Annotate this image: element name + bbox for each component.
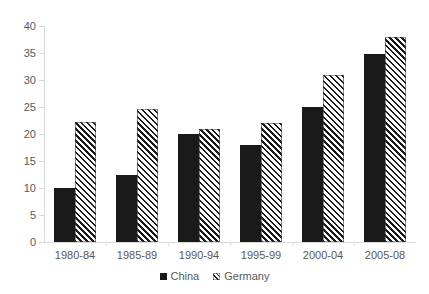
legend-swatch-solid-square-icon — [160, 273, 167, 280]
bar-germany — [385, 37, 406, 242]
plot-area — [44, 26, 416, 242]
bar-china — [302, 107, 323, 242]
bar-china — [364, 54, 385, 242]
y-tick-label: 15 — [4, 156, 36, 167]
x-axis-label-2000-04: 2000-04 — [292, 249, 354, 261]
bar-group — [292, 26, 354, 242]
bar-germany — [323, 75, 344, 242]
x-tick-separator — [292, 242, 293, 246]
bar-group — [354, 26, 416, 242]
y-tick-label: 0 — [4, 237, 36, 248]
chart-legend: China Germany — [0, 270, 429, 282]
y-tick-label: 25 — [4, 102, 36, 113]
bar-china — [178, 134, 199, 242]
bar-germany — [137, 109, 158, 242]
y-tick-label: 35 — [4, 48, 36, 59]
legend-label-germany: Germany — [224, 270, 269, 282]
bar-group — [168, 26, 230, 242]
x-tick-separator — [230, 242, 231, 246]
x-axis-label-2005-08: 2005-08 — [354, 249, 416, 261]
bar-group — [230, 26, 292, 242]
legend-label-china: China — [171, 270, 200, 282]
bar-group — [44, 26, 106, 242]
x-axis-label-1980-84: 1980-84 — [44, 249, 106, 261]
x-tick-separator — [168, 242, 169, 246]
bar-chart: 40 35 30 25 20 15 10 5 0 — [0, 0, 429, 294]
x-axis-label-1990-94: 1990-94 — [168, 249, 230, 261]
bar-group — [106, 26, 168, 242]
y-axis-tick-labels: 40 35 30 25 20 15 10 5 0 — [0, 0, 36, 294]
bar-china — [54, 188, 75, 242]
x-tick-separator — [106, 242, 107, 246]
y-tick-label: 20 — [4, 129, 36, 140]
y-tick-label: 5 — [4, 210, 36, 221]
y-tick-label: 10 — [4, 183, 36, 194]
bar-germany — [199, 129, 220, 242]
legend-item-germany: Germany — [213, 270, 269, 282]
x-axis-label-1985-89: 1985-89 — [106, 249, 168, 261]
legend-swatch-hatched-square-icon — [213, 273, 220, 280]
y-tick-label: 30 — [4, 75, 36, 86]
x-tick-separator — [354, 242, 355, 246]
legend-item-china: China — [160, 270, 200, 282]
x-axis-label-1995-99: 1995-99 — [230, 249, 292, 261]
y-tick-label: 40 — [4, 21, 36, 32]
bar-germany — [261, 123, 282, 242]
bar-china — [240, 145, 261, 242]
bar-germany — [75, 122, 96, 242]
bar-china — [116, 175, 137, 242]
